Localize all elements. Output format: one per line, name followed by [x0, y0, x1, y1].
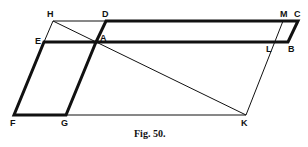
label-K: K: [241, 118, 248, 128]
line-HK-diagonal: [53, 21, 246, 115]
label-D: D: [102, 9, 109, 19]
label-M: M: [280, 9, 288, 19]
label-B: B: [288, 44, 295, 54]
label-E: E: [35, 36, 41, 46]
label-A: A: [100, 33, 107, 43]
thin-lines: [44, 21, 283, 115]
label-H: H: [47, 9, 54, 19]
line-HE: [44, 21, 53, 42]
thick-parallelograms: [14, 21, 298, 115]
figure-canvas: H D M C E A L B F G K Fig. 50.: [0, 0, 308, 147]
parallelogram-EAGF: [14, 42, 96, 115]
label-C: C: [294, 9, 301, 19]
point-labels: H D M C E A L B F G K: [10, 9, 301, 128]
figure-caption: Fig. 50.: [134, 128, 166, 139]
parallelogram-DCBA: [96, 21, 298, 42]
label-G: G: [61, 118, 68, 128]
label-F: F: [10, 118, 16, 128]
label-L: L: [266, 44, 272, 54]
line-MK: [246, 21, 283, 115]
